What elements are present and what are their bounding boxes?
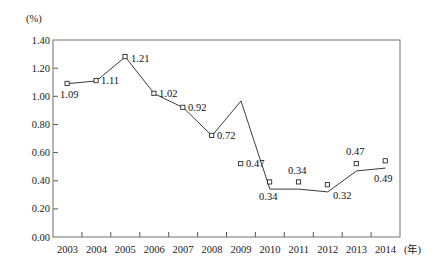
data-point-label: 1.21 [131, 53, 149, 64]
x-tick-labels: 2003 2004 2005 2006 2007 2008 2009 2010 … [57, 244, 397, 255]
x-tick-label: 2007 [173, 244, 194, 255]
data-point-labels: 1.09 1.11 1.21 1.02 0.92 0.72 0.47 0.34 … [60, 53, 392, 202]
y-tick-label: 0.60 [32, 147, 50, 158]
data-point-marker [152, 91, 156, 95]
y-axis-unit-label: (%) [26, 13, 42, 25]
data-point-marker [239, 162, 243, 166]
x-tick-label: 2006 [144, 244, 165, 255]
line-chart: (%) 1.40 1.20 1.00 0.80 0.60 0.40 0.20 0… [0, 0, 435, 272]
data-point-marker [383, 159, 387, 163]
x-tick-label: 2012 [317, 244, 338, 255]
data-point-marker [268, 180, 272, 184]
data-point-label: 0.34 [259, 191, 278, 202]
y-tick-label: 1.40 [32, 35, 50, 46]
data-point-label: 0.32 [333, 190, 351, 201]
x-axis-unit-label: (年) [404, 243, 421, 256]
data-point-marker [94, 79, 98, 83]
data-point-label: 0.47 [346, 146, 364, 157]
y-tick-label: 1.00 [32, 91, 50, 102]
x-tick-label: 2010 [259, 244, 280, 255]
y-tick-label: 0.00 [32, 232, 50, 243]
data-point-label: 1.11 [101, 75, 119, 86]
x-tick-label: 2003 [57, 244, 78, 255]
x-tick-label: 2011 [288, 244, 309, 255]
x-tick-label: 2014 [375, 244, 397, 255]
data-point-label: 0.47 [246, 158, 264, 169]
y-tick-marks [53, 68, 58, 209]
data-point-label: 0.92 [188, 102, 206, 113]
x-tick-marks [82, 232, 371, 237]
y-tick-label: 0.80 [32, 119, 50, 130]
data-point-label: 1.02 [159, 88, 177, 99]
data-point-marker [325, 183, 329, 187]
data-point-marker [181, 105, 185, 109]
data-point-marker [65, 81, 69, 85]
data-point-marker [210, 133, 214, 137]
data-point-label: 0.72 [217, 130, 235, 141]
y-tick-label: 1.20 [32, 63, 50, 74]
x-tick-label: 2009 [231, 244, 252, 255]
data-point-label: 0.34 [288, 165, 307, 176]
x-tick-label: 2013 [346, 244, 367, 255]
data-point-label: 1.09 [60, 89, 78, 100]
data-point-marker [123, 55, 127, 59]
y-tick-labels: 1.40 1.20 1.00 0.80 0.60 0.40 0.20 0.00 [32, 35, 50, 243]
chart-page: (%) 1.40 1.20 1.00 0.80 0.60 0.40 0.20 0… [0, 0, 435, 272]
y-tick-label: 0.20 [32, 203, 50, 214]
data-point-label: 0.49 [374, 173, 392, 184]
x-tick-label: 2005 [115, 244, 136, 255]
y-tick-label: 0.40 [32, 175, 50, 186]
x-tick-label: 2004 [86, 244, 108, 255]
data-point-marker [354, 162, 358, 166]
x-tick-label: 2008 [202, 244, 223, 255]
data-point-marker [296, 180, 300, 184]
